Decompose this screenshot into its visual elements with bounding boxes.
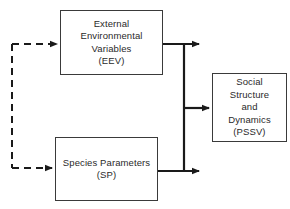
pssv-label: Social Structure and Dynamics (PSSV)	[228, 76, 271, 139]
sp-label-line: (SP)	[63, 169, 150, 182]
dashed-feedback-connector	[12, 44, 57, 168]
sp-box: Species Parameters (SP)	[55, 137, 158, 201]
pssv-label-line: Structure	[228, 89, 271, 102]
pssv-label-line: Dynamics	[228, 114, 271, 127]
eev-label-line: (EEV)	[80, 55, 142, 68]
eev-label-line: External	[80, 18, 142, 31]
eev-label: External Environmental Variables (EEV)	[80, 18, 142, 68]
eev-box: External Environmental Variables (EEV)	[60, 10, 163, 75]
eev-label-line: Environmental	[80, 30, 142, 43]
pssv-label-line: (PSSV)	[228, 126, 271, 139]
sp-label: Species Parameters (SP)	[63, 157, 150, 182]
pssv-label-line: Social	[228, 76, 271, 89]
sp-label-line: Species Parameters	[63, 157, 150, 170]
eev-label-line: Variables	[80, 43, 142, 56]
pssv-box: Social Structure and Dynamics (PSSV)	[212, 73, 287, 142]
pssv-label-line: and	[228, 101, 271, 114]
